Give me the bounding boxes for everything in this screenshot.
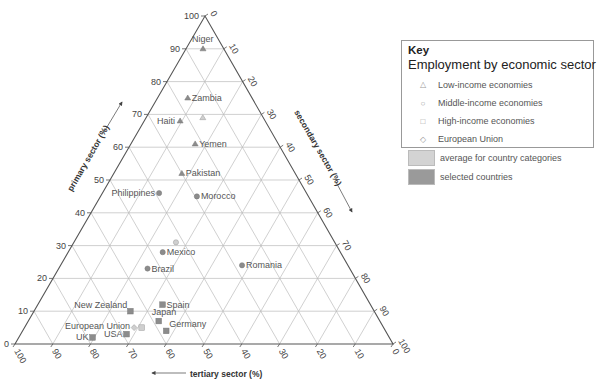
key-title: Key bbox=[408, 44, 587, 57]
tick-label-secondary: 50 bbox=[302, 173, 316, 187]
key-item-low-income: △ Low-income economies bbox=[408, 75, 587, 94]
tertiary-axis-title: tertiary sector (%) bbox=[190, 369, 262, 379]
key-item-high-income: □ High-income economies bbox=[408, 112, 587, 130]
grid-line-tertiary bbox=[34, 311, 53, 344]
point-label: Morocco bbox=[201, 191, 236, 201]
key-subtitle: Employment by economic sector bbox=[408, 57, 587, 73]
usa-marker bbox=[124, 331, 130, 337]
key-label: Low-income economies bbox=[438, 80, 533, 90]
point-label: Zambia bbox=[192, 93, 222, 103]
tick-label-primary: 0 bbox=[4, 339, 9, 349]
point-label: UK bbox=[76, 332, 89, 342]
low-average-marker bbox=[200, 115, 206, 120]
point-label: USA bbox=[104, 329, 123, 339]
tick-label-secondary: 80 bbox=[359, 271, 373, 285]
tick-label-primary: 70 bbox=[132, 109, 142, 119]
point-label: Romania bbox=[246, 260, 282, 270]
point-label: Japan bbox=[152, 307, 177, 317]
point-label: Pakistan bbox=[186, 168, 221, 178]
selected-swatch bbox=[408, 169, 435, 185]
key-swatch-selected: selected countries bbox=[408, 167, 587, 186]
key-label: Middle-income economies bbox=[438, 98, 543, 108]
middle-average-marker bbox=[173, 240, 178, 245]
point-label: Brazil bbox=[152, 264, 175, 274]
point-label: Haiti bbox=[157, 116, 175, 126]
tick-label-secondary: 70 bbox=[340, 239, 354, 253]
tick-label-tertiary: 20 bbox=[315, 347, 329, 361]
tick-label-secondary: 0 bbox=[208, 9, 219, 18]
tick-label-tertiary: 90 bbox=[50, 347, 64, 361]
key-label: High-income economies bbox=[438, 116, 535, 126]
circle-icon: ○ bbox=[408, 99, 438, 108]
tick-label-primary: 10 bbox=[18, 306, 28, 316]
point-label: New Zealand bbox=[74, 300, 127, 310]
tick-label-tertiary: 80 bbox=[88, 347, 102, 361]
key-item-european-union: ◇ European Union bbox=[408, 130, 587, 148]
tick-label-tertiary: 40 bbox=[239, 347, 253, 361]
yemen-marker bbox=[192, 141, 198, 146]
key-item-middle-income: ○ Middle-income economies bbox=[408, 94, 587, 112]
tick-label-primary: 50 bbox=[94, 175, 104, 185]
mexico-marker bbox=[160, 250, 165, 255]
point-label: Niger bbox=[192, 34, 214, 44]
grid-line-secondary bbox=[355, 311, 374, 344]
european-union-marker bbox=[131, 325, 137, 331]
tick-label-primary: 90 bbox=[170, 44, 180, 54]
diamond-icon: ◇ bbox=[408, 135, 438, 144]
grid-line-secondary bbox=[280, 246, 337, 344]
square-icon: □ bbox=[408, 117, 438, 126]
tick-label-primary: 60 bbox=[113, 142, 123, 152]
pakistan-marker bbox=[179, 170, 185, 175]
romania-marker bbox=[239, 263, 244, 268]
new-zealand-marker bbox=[128, 308, 134, 314]
point-label: Yemen bbox=[199, 139, 227, 149]
key-label: average for country categories bbox=[440, 153, 562, 163]
point-label: Philippines bbox=[112, 188, 156, 198]
key-label: selected countries bbox=[440, 172, 513, 182]
key-swatch-average: average for country categories bbox=[408, 148, 587, 167]
secondary-axis-title: secondary sector (%) bbox=[292, 108, 344, 188]
tick-label-secondary: 30 bbox=[265, 107, 279, 121]
tick-label-secondary: 90 bbox=[377, 304, 391, 318]
niger-marker bbox=[200, 46, 206, 51]
morocco-marker bbox=[194, 194, 199, 199]
triangle-icon: △ bbox=[408, 80, 438, 89]
tick-label-tertiary: 10 bbox=[352, 347, 366, 361]
tick-label-tertiary: 70 bbox=[126, 347, 140, 361]
tick-label-tertiary: 30 bbox=[277, 347, 291, 361]
point-label: Germany bbox=[169, 319, 207, 329]
tick-label-tertiary: 60 bbox=[163, 347, 177, 361]
germany-marker bbox=[163, 328, 169, 334]
zambia-marker bbox=[185, 95, 191, 100]
tick-label-primary: 100 bbox=[184, 11, 199, 21]
tick-label-secondary: 40 bbox=[283, 140, 297, 154]
point-label: Mexico bbox=[167, 247, 196, 257]
primary-axis-title: primary sector (%) bbox=[65, 123, 111, 193]
tick-label-primary: 20 bbox=[37, 273, 47, 283]
grid-line-secondary bbox=[128, 114, 261, 344]
tick-label-primary: 30 bbox=[56, 241, 66, 251]
tick-label-tertiary: 50 bbox=[201, 347, 215, 361]
key-label: European Union bbox=[438, 134, 503, 144]
tick-label-tertiary: 100 bbox=[12, 347, 28, 365]
tick-label-secondary: 20 bbox=[246, 75, 260, 89]
high-average-marker bbox=[139, 325, 145, 331]
tick-label-primary: 80 bbox=[151, 77, 161, 87]
japan-marker bbox=[156, 318, 162, 324]
brazil-marker bbox=[145, 266, 150, 271]
uk-marker bbox=[90, 335, 96, 341]
average-swatch bbox=[408, 150, 435, 166]
tick-label-tertiary: 0 bbox=[390, 347, 401, 356]
tick-label-primary: 40 bbox=[75, 208, 85, 218]
legend-key: Key Employment by economic sector △ Low-… bbox=[401, 40, 594, 148]
philippines-marker bbox=[157, 191, 162, 196]
tick-label-secondary: 10 bbox=[227, 42, 241, 56]
tick-label-secondary: 60 bbox=[321, 206, 335, 220]
